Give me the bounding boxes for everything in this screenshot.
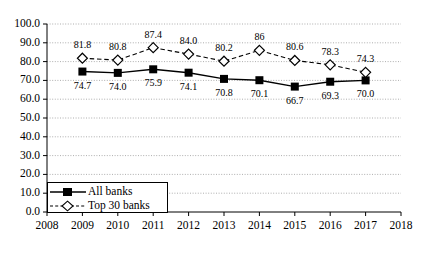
data-point-label: 78.3	[310, 47, 350, 57]
x-tick-label: 2018	[379, 220, 423, 232]
legend-label-all-banks: All banks	[88, 186, 132, 198]
y-tick-label: 50.0	[0, 112, 40, 124]
y-tick-label: 0.0	[0, 206, 40, 218]
legend-item-top-30-banks: Top 30 banks	[48, 198, 167, 213]
y-tick-label: 10.0	[0, 187, 40, 199]
data-point-label: 80.6	[275, 42, 315, 52]
data-point-label: 74.0	[98, 82, 138, 92]
data-point-label: 75.9	[133, 78, 173, 88]
y-tick-label: 60.0	[0, 93, 40, 105]
y-tick-label: 100.0	[0, 18, 40, 30]
legend: All banks Top 30 banks	[47, 182, 168, 213]
legend-item-all-banks: All banks	[48, 184, 167, 199]
data-point-label: 80.2	[204, 43, 244, 53]
data-point-label: 86	[239, 32, 279, 42]
y-tick-label: 30.0	[0, 150, 40, 162]
y-tick-label: 70.0	[0, 74, 40, 86]
legend-swatch-top-30-banks	[48, 199, 88, 213]
legend-swatch-all-banks	[48, 185, 88, 199]
data-point-label: 80.8	[98, 42, 138, 52]
data-point-label: 87.4	[133, 30, 173, 40]
data-point-label: 69.3	[310, 91, 350, 101]
data-point-label: 70.8	[204, 88, 244, 98]
data-point-label: 74.1	[169, 82, 209, 92]
data-point-label: 74.3	[346, 54, 386, 64]
data-point-label: 84.0	[169, 36, 209, 46]
y-tick-label: 90.0	[0, 37, 40, 49]
data-point-label: 70.1	[239, 89, 279, 99]
legend-label-top-30-banks: Top 30 banks	[88, 200, 150, 212]
y-tick-label: 20.0	[0, 168, 40, 180]
line-chart: 0.010.020.030.040.050.060.070.080.090.01…	[0, 0, 428, 256]
data-point-label: 70.0	[346, 89, 386, 99]
data-point-label: 81.8	[62, 40, 102, 50]
data-point-label: 66.7	[275, 96, 315, 106]
y-tick-label: 40.0	[0, 131, 40, 143]
y-tick-label: 80.0	[0, 56, 40, 68]
data-point-label: 74.7	[62, 81, 102, 91]
plot-canvas	[0, 0, 428, 256]
